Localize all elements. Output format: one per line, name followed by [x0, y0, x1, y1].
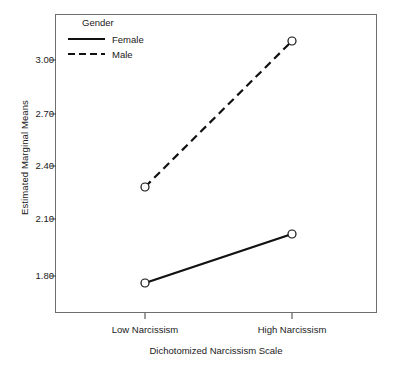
estimated-marginal-means-line-chart: Estimated Marginal Means 3.00 2.70 2.40 …: [0, 0, 393, 367]
x-axis-ticks: [145, 313, 292, 319]
plot-canvas: [0, 0, 393, 367]
data-point-female-high: [288, 230, 296, 238]
series-line-male: [145, 41, 292, 187]
data-point-female-low: [141, 279, 149, 287]
series-line-female: [145, 234, 292, 283]
plot-frame: [56, 15, 377, 313]
data-point-male-high: [288, 37, 296, 45]
data-point-male-low: [141, 183, 149, 191]
